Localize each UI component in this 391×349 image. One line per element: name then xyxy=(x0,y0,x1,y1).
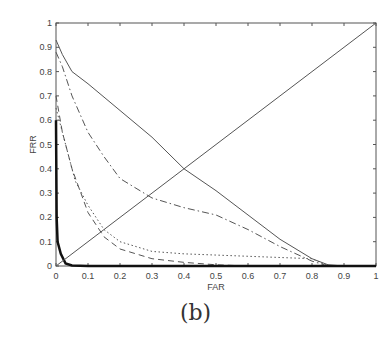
det-chart: 00.10.20.30.40.50.60.70.80.9100.10.20.30… xyxy=(0,0,391,300)
y-tick-label: 0.8 xyxy=(39,67,52,77)
series-dashed xyxy=(56,96,376,266)
y-tick-label: 0 xyxy=(47,261,52,271)
y-tick-label: 0.7 xyxy=(39,91,52,101)
series-solid xyxy=(56,40,376,266)
series-eer-line xyxy=(56,23,376,266)
series-dotted xyxy=(56,108,376,266)
y-tick-label: 0.3 xyxy=(39,188,52,198)
y-tick-label: 0.4 xyxy=(39,164,52,174)
x-tick-label: 0.6 xyxy=(242,271,255,281)
x-tick-label: 0.3 xyxy=(146,271,159,281)
series-dash-dot xyxy=(56,52,376,266)
x-tick-label: 0.9 xyxy=(338,271,351,281)
y-axis-label: FRR xyxy=(28,135,38,154)
x-tick-label: 1 xyxy=(373,271,378,281)
y-tick-label: 0.1 xyxy=(39,237,52,247)
y-tick-label: 0.6 xyxy=(39,115,52,125)
y-tick-label: 1 xyxy=(47,18,52,28)
x-tick-label: 0.2 xyxy=(114,271,127,281)
x-tick-label: 0.8 xyxy=(306,271,319,281)
series-thick xyxy=(56,120,376,266)
x-tick-label: 0.5 xyxy=(210,271,223,281)
y-tick-label: 0.5 xyxy=(39,140,52,150)
y-tick-label: 0.9 xyxy=(39,42,52,52)
x-tick-label: 0.1 xyxy=(82,271,95,281)
y-tick-label: 0.2 xyxy=(39,212,52,222)
x-tick-label: 0 xyxy=(53,271,58,281)
x-axis-label: FAR xyxy=(207,282,225,292)
x-tick-label: 0.4 xyxy=(178,271,191,281)
x-tick-label: 0.7 xyxy=(274,271,287,281)
figure-caption: (b) xyxy=(0,300,391,325)
